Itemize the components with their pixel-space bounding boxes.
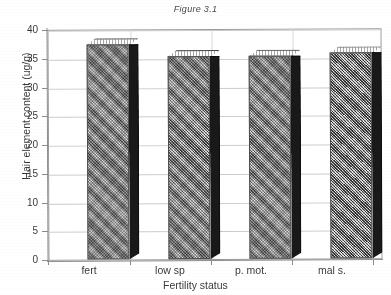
x-tick-mark-4 [373, 260, 374, 265]
bar-fert[interactable] [87, 38, 130, 259]
x-tick-label-mal-s: mal s. [292, 264, 372, 276]
x-tick-label-low-sp: low sp [130, 264, 210, 276]
figure-container: Figure 3.1 [0, 0, 391, 295]
bar-front-face [330, 52, 373, 258]
bar-p-mot[interactable] [249, 50, 292, 259]
y-tick-label-5: 5 [10, 226, 38, 236]
y-tick-mark-10 [42, 203, 48, 204]
bar-side-face [372, 52, 383, 258]
y-tick-mark-30 [42, 88, 48, 89]
y-tick-mark-20 [42, 145, 48, 146]
y-axis-title: Hair element content (ug/g) [20, 16, 32, 216]
y-tick-mark-5 [42, 231, 48, 232]
bar-front-face [249, 56, 292, 259]
bar-side-face [291, 56, 302, 259]
y-tick-label-0: 0 [10, 255, 38, 265]
plot-area [47, 28, 382, 260]
bar-side-face [210, 56, 221, 259]
bar-mal-s[interactable] [330, 46, 373, 258]
bar-side-face [129, 44, 140, 259]
y-tick-mark-15 [42, 174, 48, 175]
y-tick-mark-25 [42, 116, 48, 117]
chart-title: Figure 3.1 [0, 4, 391, 14]
y-tick-mark-40 [42, 30, 48, 31]
gridline-40 [49, 29, 381, 31]
bar-front-face [87, 44, 130, 259]
x-tick-label-fert: fert [49, 264, 129, 276]
x-axis-title: Fertility status [0, 279, 391, 291]
bar-low-sp[interactable] [168, 50, 211, 259]
y-tick-mark-35 [42, 59, 48, 60]
bar-front-face [168, 56, 211, 259]
x-tick-label-p-mot: p. mot. [211, 264, 291, 276]
